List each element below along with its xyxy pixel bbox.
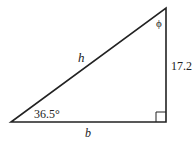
triangle-diagram: h b 17.2 36.5° ϕ: [0, 0, 195, 143]
right-angle-marker: [156, 112, 166, 122]
right-triangle: [11, 8, 166, 122]
base-angle-label: 36.5°: [34, 107, 60, 121]
hypotenuse-label: h: [78, 50, 85, 65]
base-label: b: [85, 126, 91, 140]
vertical-side-label: 17.2: [171, 59, 192, 73]
top-angle-label: ϕ: [156, 17, 162, 29]
